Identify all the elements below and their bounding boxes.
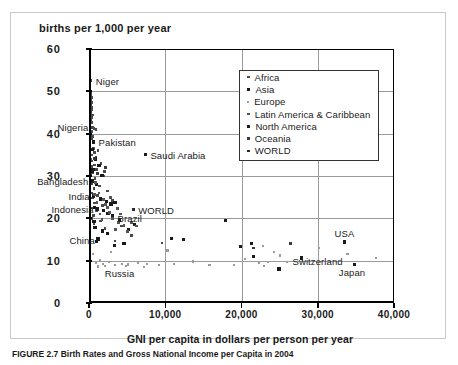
x-tick-mark [393, 303, 395, 308]
annotation-niger: Niger [96, 75, 119, 86]
annotation-indonesia: Indonesia [52, 204, 94, 215]
legend-marker-icon [247, 76, 250, 79]
y-tick-mark [86, 260, 92, 262]
legend-marker-icon [247, 88, 250, 91]
legend-marker-icon [247, 113, 250, 116]
annotation-pakistan: Pakistan [99, 137, 136, 148]
y-tick-label: 10 [35, 255, 61, 267]
legend-marker-icon [247, 137, 250, 140]
y-tick-mark [86, 90, 92, 92]
annotation-usa: USA [335, 228, 355, 239]
annotation-japan: Japan [339, 266, 365, 277]
x-tick-mark [317, 303, 319, 308]
legend-item-world[interactable]: WORLD [240, 145, 378, 157]
legend-label: Latin America & Caribbean [255, 109, 371, 120]
figure-caption: FIGURE 2.7 Birth Rates and Gross Nationa… [12, 349, 458, 359]
legend-item-asia[interactable]: Asia [240, 83, 378, 95]
x-tick-mark [241, 303, 243, 308]
legend-label: Africa [255, 72, 280, 83]
x-tick-label: 40,000 [378, 309, 410, 320]
legend-marker-icon [247, 125, 250, 128]
y-tick-label: 50 [35, 85, 61, 97]
y-tick-label: 60 [35, 43, 61, 55]
y-tick-mark [86, 217, 92, 219]
y-tick-mark [86, 48, 92, 50]
annotation-nigeria: Nigeria [57, 122, 88, 133]
annotation-world: WORLD [138, 204, 174, 215]
legend-item-europe[interactable]: Europe [240, 96, 378, 108]
legend-label: Oceania [255, 133, 291, 144]
annotation-russia: Russia [105, 267, 135, 278]
annotation-china: China [70, 234, 95, 245]
y-tick-label: 0 [35, 297, 61, 309]
x-tick-mark [88, 303, 90, 308]
chart-legend[interactable]: AfricaAsiaEuropeLatin America & Caribbea… [239, 70, 379, 161]
legend-item-north-america[interactable]: North America [240, 120, 378, 132]
legend-label: Asia [255, 84, 274, 95]
x-tick-label: 10,000 [149, 309, 181, 320]
legend-marker-icon [247, 101, 249, 103]
legend-label: North America [255, 121, 317, 132]
annotation-brazil: Brazil [118, 213, 142, 224]
scatter-plot-area: NigerNigeriaPakistanSaudi ArabiaBanglade… [89, 49, 394, 303]
y-tick-mark [86, 133, 92, 135]
figure-frame: births per 1,000 per year NigerNigeriaPa… [10, 12, 446, 339]
legend-item-latin-america-caribbean[interactable]: Latin America & Caribbean [240, 108, 378, 120]
legend-label: Europe [254, 96, 285, 107]
chart-title: births per 1,000 per year [39, 22, 171, 34]
annotation-india: India [69, 190, 90, 201]
annotation-saudi-arabia: Saudi Arabia [150, 149, 205, 160]
x-tick-mark [165, 303, 167, 308]
x-tick-label: 30,000 [302, 309, 334, 320]
legend-item-oceania[interactable]: Oceania [240, 132, 378, 144]
annotation-bangladesh: Bangladesh [37, 176, 88, 187]
x-tick-label: 0 [86, 309, 92, 320]
legend-item-africa[interactable]: Africa [240, 71, 378, 83]
x-axis-label: GNI per capita in dollars per person per… [11, 333, 458, 345]
legend-label: WORLD [255, 145, 291, 156]
annotation-switzerland: Switzerland [293, 255, 343, 266]
legend-marker-icon [247, 150, 250, 153]
x-tick-label: 20,000 [225, 309, 257, 320]
